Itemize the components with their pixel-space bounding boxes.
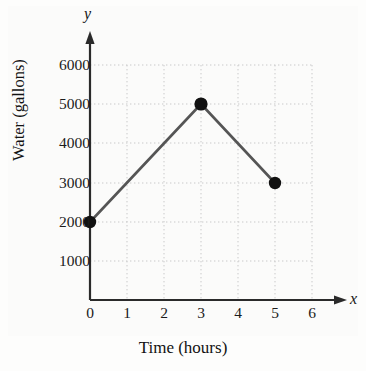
data-point-3h-5000gal [194,97,207,110]
y-tick-label-3000: 3000 [38,175,90,191]
x-tick-label-6: 6 [300,305,324,321]
x-axis-variable-label: x [350,290,357,308]
x-tick-label-5: 5 [263,305,287,321]
x-tick-label-0: 0 [78,305,102,321]
x-axis-arrowhead [334,295,347,304]
y-tick-label-1000: 1000 [38,253,90,269]
y-axis-arrowhead [85,31,94,44]
y-tick-label-4000: 4000 [38,135,90,151]
x-tick-label-4: 4 [226,305,250,321]
y-axis-title: Water (gallons) [9,10,29,210]
x-tick-label-1: 1 [115,305,139,321]
x-tick-label-2: 2 [152,305,176,321]
y-tick-label-2000: 2000 [38,214,90,230]
data-point-5h-3000gal [269,177,281,189]
data-point-markers [84,97,281,228]
data-line-series-1 [90,104,275,222]
chart-figure: 6000 5000 4000 3000 2000 1000 0 1 2 3 4 … [0,0,366,371]
y-tick-label-6000: 6000 [38,57,90,73]
x-axis-title: Time (hours) [0,338,366,358]
y-tick-label-5000: 5000 [38,96,90,112]
x-tick-label-3: 3 [189,305,213,321]
y-axis-variable-label: y [84,5,91,23]
